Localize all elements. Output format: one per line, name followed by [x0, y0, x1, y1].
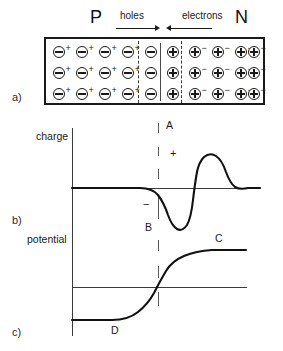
charge-curve-svg	[60, 125, 260, 240]
p-ion: +	[53, 42, 71, 62]
ion-charge-sup: +	[66, 86, 71, 95]
depletion-n-ion	[167, 63, 179, 83]
circled-plus-icon	[167, 88, 179, 100]
depletion-p-ion	[145, 84, 157, 104]
panel-label-b: b)	[12, 215, 22, 226]
circled-minus-icon	[145, 67, 157, 79]
ion-row: + + + + − − − −	[46, 84, 263, 104]
circled-minus-icon	[76, 46, 88, 58]
ion-charge-sup: +	[112, 65, 117, 74]
circled-plus-icon	[212, 88, 224, 100]
circled-minus-icon	[122, 46, 134, 58]
circled-plus-icon	[248, 46, 260, 58]
p-ion: +	[53, 84, 71, 104]
charge-peak-label-a: A	[166, 120, 173, 131]
electrons-arrow-head-icon	[166, 25, 171, 31]
ion-charge-sup: −	[261, 86, 266, 95]
ion-charge-sup: +	[89, 86, 94, 95]
n-ion: −	[212, 84, 230, 104]
p-ion: +	[76, 63, 94, 83]
circled-plus-icon	[189, 88, 201, 100]
ion-charge-sup: +	[89, 65, 94, 74]
circled-minus-icon	[122, 88, 134, 100]
n-region-label: N	[235, 8, 248, 26]
n-ion: −	[189, 84, 207, 104]
n-ion: −	[248, 84, 266, 104]
metallurgical-junction-line	[160, 43, 161, 101]
circled-minus-icon	[53, 46, 65, 58]
circled-plus-icon	[235, 88, 247, 100]
ion-charge-sup: +	[112, 86, 117, 95]
ion-charge-sup: −	[261, 44, 266, 53]
ion-charge-sup: −	[202, 65, 207, 74]
potential-curve	[72, 250, 246, 320]
p-ion: +	[99, 42, 117, 62]
circled-minus-icon	[53, 88, 65, 100]
circled-minus-icon	[122, 67, 134, 79]
circled-plus-icon	[189, 67, 201, 79]
n-ion: −	[189, 42, 207, 62]
panel-label-c: c)	[12, 327, 21, 338]
ion-charge-sup: +	[112, 44, 117, 53]
holes-arrow-shaft	[116, 28, 156, 29]
ion-charge-sup: +	[66, 44, 71, 53]
n-ion: −	[248, 42, 266, 62]
ion-charge-sup: −	[202, 86, 207, 95]
n-ion: −	[189, 63, 207, 83]
holes-flow-label: holes	[120, 11, 144, 21]
panel-label-a: a)	[12, 92, 22, 103]
p-ion: +	[99, 63, 117, 83]
circled-minus-icon	[145, 46, 157, 58]
figure-root: a) P N holes electrons + + + + − − − − +	[0, 0, 283, 351]
potential-low-label-d: D	[111, 325, 119, 336]
circled-minus-icon	[53, 67, 65, 79]
p-region-label: P	[90, 8, 102, 26]
circled-plus-icon	[235, 67, 247, 79]
circled-minus-icon	[76, 88, 88, 100]
p-ion: +	[99, 84, 117, 104]
ion-charge-sup: −	[202, 44, 207, 53]
n-ion: −	[248, 63, 266, 83]
depletion-right-boundary	[181, 41, 182, 103]
ion-row: + + + + − − − −	[46, 42, 263, 62]
electrons-flow-label: electrons	[182, 11, 223, 21]
n-ion: −	[212, 42, 230, 62]
ion-charge-sup: −	[261, 65, 266, 74]
ion-charge-sup: +	[66, 65, 71, 74]
p-ion: +	[76, 84, 94, 104]
electrons-arrow-shaft	[171, 28, 212, 29]
circled-plus-icon	[167, 46, 179, 58]
circled-plus-icon	[167, 67, 179, 79]
circled-plus-icon	[248, 88, 260, 100]
ion-charge-sup: −	[225, 86, 230, 95]
ion-charge-sup: −	[225, 65, 230, 74]
circled-plus-icon	[212, 67, 224, 79]
circled-plus-icon	[248, 67, 260, 79]
circled-minus-icon	[99, 88, 111, 100]
circled-minus-icon	[99, 46, 111, 58]
semiconductor-block: + + + + − − − − + + + + − − − −	[44, 37, 265, 105]
circled-plus-icon	[212, 46, 224, 58]
circled-plus-icon	[235, 46, 247, 58]
positive-charge-sign: +	[170, 148, 176, 159]
circled-minus-icon	[99, 67, 111, 79]
depletion-p-ion	[145, 63, 157, 83]
circled-plus-icon	[189, 46, 201, 58]
depletion-n-ion	[167, 84, 179, 104]
depletion-left-boundary	[138, 41, 139, 103]
ion-row: + + + + − − − −	[46, 63, 263, 83]
negative-charge-sign: −	[143, 199, 149, 210]
n-ion: −	[212, 63, 230, 83]
circled-minus-icon	[76, 67, 88, 79]
depletion-n-ion	[167, 42, 179, 62]
ion-charge-sup: −	[225, 44, 230, 53]
circled-minus-icon	[145, 88, 157, 100]
charge-density-curve	[72, 154, 260, 230]
holes-arrow-head-icon	[155, 25, 160, 31]
potential-curve-svg	[60, 238, 260, 348]
p-ion: +	[53, 63, 71, 83]
potential-high-label-c: C	[215, 233, 223, 244]
charge-trough-label-b: B	[145, 222, 152, 233]
p-ion: +	[76, 42, 94, 62]
depletion-p-ion	[145, 42, 157, 62]
